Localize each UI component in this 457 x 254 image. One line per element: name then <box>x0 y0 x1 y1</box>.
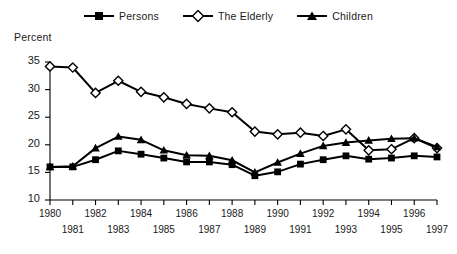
x-axis-tick-label: 1996 <box>394 208 434 219</box>
x-axis-tick-label: 1985 <box>144 224 184 235</box>
legend-label-persons: Persons <box>119 10 159 22</box>
poverty-rate-line-chart: Persons The Elderly Children Percent 101… <box>0 0 457 254</box>
data-point-filled-square-icon <box>160 155 167 162</box>
legend-item-children: Children <box>297 10 373 22</box>
y-axis-title: Percent <box>14 31 52 43</box>
legend-label-the-elderly: The Elderly <box>218 10 273 22</box>
x-axis-tick-label: 1990 <box>258 208 298 219</box>
y-axis-tick-label: 15 <box>14 164 40 176</box>
data-point-open-diamond-icon <box>182 99 191 108</box>
series-line-the-elderly <box>50 66 437 150</box>
data-point-filled-square-icon <box>92 156 99 163</box>
data-point-filled-square-icon <box>411 152 418 159</box>
legend-label-children: Children <box>332 10 373 22</box>
data-point-filled-square-icon <box>274 168 281 175</box>
data-point-filled-square-icon <box>206 159 213 166</box>
y-axis-tick-label: 35 <box>14 54 40 66</box>
legend-marker-filled-square-icon <box>84 10 114 22</box>
x-axis-tick-label: 1992 <box>303 208 343 219</box>
legend-marker-filled-triangle-icon <box>297 10 327 22</box>
data-point-filled-square-icon <box>365 156 372 163</box>
data-point-filled-square-icon <box>115 147 122 154</box>
data-point-open-diamond-icon <box>296 128 305 137</box>
x-axis-tick-label: 1994 <box>349 208 389 219</box>
x-axis-tick-label: 1995 <box>371 224 411 235</box>
x-axis-tick-label: 1983 <box>98 224 138 235</box>
y-axis-tick-label: 25 <box>14 109 40 121</box>
data-point-filled-square-icon <box>297 161 304 168</box>
x-axis-tick-label: 1991 <box>280 224 320 235</box>
data-point-open-diamond-icon <box>205 104 214 113</box>
x-axis-tick-label: 1993 <box>326 224 366 235</box>
x-axis-tick-label: 1982 <box>76 208 116 219</box>
y-axis-tick-label: 20 <box>14 137 40 149</box>
legend-marker-open-diamond-icon <box>183 10 213 22</box>
x-axis-tick-label: 1986 <box>167 208 207 219</box>
data-point-filled-square-icon <box>343 152 350 159</box>
legend-item-the-elderly: The Elderly <box>183 10 273 22</box>
x-axis-tick-label: 1989 <box>235 224 275 235</box>
data-point-filled-square-icon <box>183 159 190 166</box>
x-axis-tick-label: 1984 <box>121 208 161 219</box>
data-point-open-diamond-icon <box>136 87 145 96</box>
x-axis-tick-label: 1980 <box>30 208 70 219</box>
y-axis-tick-label: 30 <box>14 82 40 94</box>
x-axis-tick-label: 1987 <box>189 224 229 235</box>
data-point-filled-square-icon <box>434 154 441 161</box>
x-axis-tick-label: 1981 <box>53 224 93 235</box>
series-line-persons <box>50 151 437 176</box>
x-axis-tick-label: 1988 <box>212 208 252 219</box>
data-point-open-diamond-icon <box>273 130 282 139</box>
data-point-open-diamond-icon <box>387 145 396 154</box>
chart-legend: Persons The Elderly Children <box>0 10 457 22</box>
data-point-open-diamond-icon <box>114 76 123 85</box>
data-point-open-diamond-icon <box>319 131 328 140</box>
data-point-open-diamond-icon <box>159 93 168 102</box>
data-point-filled-square-icon <box>320 156 327 163</box>
y-axis-tick-label: 10 <box>14 192 40 204</box>
x-axis-tick-label: 1997 <box>417 224 457 235</box>
legend-item-persons: Persons <box>84 10 159 22</box>
data-point-filled-square-icon <box>388 155 395 162</box>
data-point-open-diamond-icon <box>45 62 54 71</box>
data-point-filled-square-icon <box>138 151 145 158</box>
